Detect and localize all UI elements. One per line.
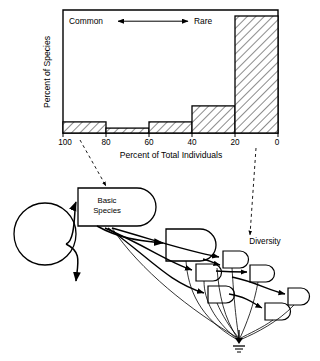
consumer-small-5 bbox=[288, 288, 310, 305]
x-axis-ticks: 100 80 60 40 20 0 bbox=[58, 133, 280, 147]
basic-species-label-line1: Basic bbox=[97, 196, 116, 205]
callout-diversity bbox=[250, 148, 256, 235]
xtick-100: 100 bbox=[58, 138, 72, 147]
figure-canvas: Common Rare 100 80 60 40 20 0 Percent of… bbox=[0, 0, 320, 361]
consumer-small-3 bbox=[250, 265, 275, 282]
energy-source-circle bbox=[14, 203, 76, 265]
diversity-label: Diversity bbox=[249, 237, 281, 246]
consumer-small-6 bbox=[265, 303, 291, 320]
bar-20-0 bbox=[235, 16, 278, 133]
bar-series bbox=[63, 16, 278, 133]
energy-diagram-panel: Basic Species Diversity bbox=[14, 188, 310, 352]
consumer-small-1 bbox=[223, 251, 249, 268]
xtick-20: 20 bbox=[230, 138, 240, 147]
xtick-60: 60 bbox=[144, 138, 154, 147]
figure-root: Common Rare 100 80 60 40 20 0 Percent of… bbox=[0, 0, 320, 361]
bar-100-80 bbox=[63, 122, 106, 133]
bar-40-20 bbox=[192, 106, 235, 133]
xtick-80: 80 bbox=[101, 138, 111, 147]
common-label: Common bbox=[69, 16, 103, 26]
xtick-0: 0 bbox=[275, 138, 280, 147]
y-axis-label: Percent of Species bbox=[42, 36, 52, 108]
bar-80-60 bbox=[106, 128, 149, 133]
xtick-40: 40 bbox=[187, 138, 197, 147]
basic-species-label-line2: Species bbox=[93, 206, 121, 215]
bar-60-40 bbox=[149, 122, 192, 133]
flow-small2-to-small3 bbox=[216, 271, 247, 272]
x-axis-label: Percent of Total Individuals bbox=[120, 150, 223, 160]
rare-label: Rare bbox=[194, 16, 212, 26]
consumer-large bbox=[166, 229, 216, 261]
